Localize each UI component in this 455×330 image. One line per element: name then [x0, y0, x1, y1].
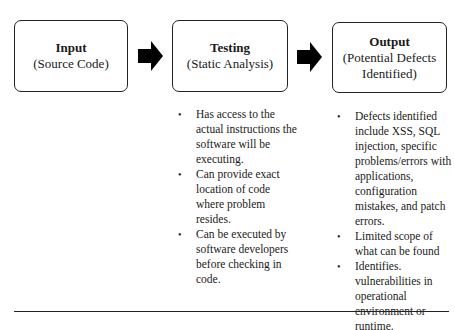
bottom-divider [14, 311, 449, 312]
input-subtitle: (Source Code) [33, 56, 108, 72]
testing-title: Testing [210, 40, 250, 56]
list-item: Limited scope of what can be found [335, 229, 453, 259]
list-item: Defects identified include XSS, SQL inje… [335, 109, 453, 229]
output-box: Output (Potential Defects Identified) [332, 22, 447, 93]
list-item: Can be executed by software developers b… [176, 227, 301, 287]
input-title: Input [55, 40, 86, 56]
output-bullet-list: Defects identified include XSS, SQL inje… [335, 109, 453, 330]
right-arrow-icon [138, 41, 163, 71]
input-box: Input (Source Code) [14, 20, 128, 92]
right-arrow-icon [297, 42, 322, 72]
testing-bullet-list: Has access to the actual instructions th… [176, 107, 301, 287]
list-item: Can provide exact location of code where… [176, 167, 301, 227]
testing-box: Testing (Static Analysis) [172, 20, 288, 92]
list-item: Has access to the actual instructions th… [176, 107, 301, 167]
output-subtitle: (Potential Defects Identified) [333, 50, 446, 82]
list-item: Identifies. vulnerabilities in operation… [335, 259, 453, 330]
testing-subtitle: (Static Analysis) [187, 56, 273, 72]
output-title: Output [369, 34, 409, 50]
